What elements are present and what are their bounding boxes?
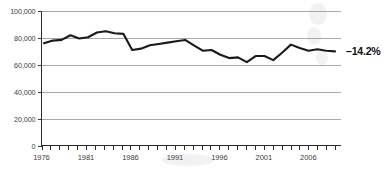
x-axis-tick-label: 1986 <box>122 153 139 162</box>
x-axis-tick-label: 1981 <box>78 153 95 162</box>
x-axis-tick-label: 2001 <box>256 153 273 162</box>
x-axis-tick-label: 1991 <box>167 153 184 162</box>
y-axis-tick-label: 0 <box>32 142 36 151</box>
y-axis-tick-label: 100,000 <box>10 7 35 16</box>
line-chart: 020,00040,00060,00080,000100,000 1976198… <box>0 0 387 171</box>
y-axis-tick-label: 80,000 <box>14 34 35 43</box>
chart-canvas: 020,00040,00060,00080,000100,000 1976198… <box>0 0 387 171</box>
y-axis-tick-label: 60,000 <box>14 61 35 70</box>
x-axis-tick-label: 1976 <box>33 153 50 162</box>
y-axis-tick-label: 20,000 <box>14 115 35 124</box>
y-axis-tick-label: 40,000 <box>14 88 35 97</box>
end-of-line-annotation: –14.2% <box>346 45 381 57</box>
x-axis-tick-label: 2006 <box>300 153 317 162</box>
x-axis-tick-label: 1996 <box>211 153 228 162</box>
